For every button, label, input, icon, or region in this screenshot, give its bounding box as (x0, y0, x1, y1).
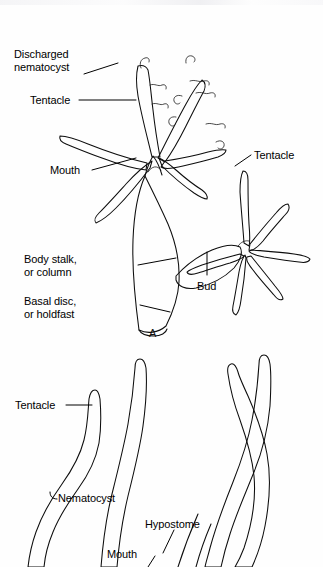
panel-b-tentacle-detail (28, 355, 271, 567)
label-basal-disc-line2: or holdfast (24, 308, 74, 321)
tentacle-bud-2 (249, 204, 289, 250)
tentacle-bud-1 (240, 171, 250, 246)
leader-lines-panel-b (50, 405, 174, 567)
panel-a-letter: A (149, 327, 156, 339)
detail-tentacle-left (28, 390, 101, 567)
tentacle-parent-4 (95, 161, 152, 223)
tentacle-bud-3 (249, 250, 310, 262)
leader-hypostome-lower (163, 530, 174, 553)
detail-tentacle-right-front (228, 364, 270, 567)
hydra-figure: Discharged nematocyst Tentacle Mouth Ten… (0, 0, 323, 567)
label-bud: Bud (197, 280, 216, 293)
label-body-stalk-line1: Body stalk, (24, 253, 77, 266)
leader-lines-panel-a (79, 63, 251, 312)
leader-tentacle-upper-right (235, 155, 251, 166)
label-tentacle-lower: Tentacle (15, 399, 55, 412)
leader-basal-disc (140, 305, 170, 312)
label-mouth-upper: Mouth (50, 164, 80, 177)
hydra-illustration (0, 0, 323, 567)
label-tentacle-upper-right: Tentacle (254, 149, 294, 162)
tentacle-bud-4 (247, 256, 283, 300)
tentacle-parent-1 (137, 66, 161, 157)
leader-mouth (92, 158, 136, 170)
tentacle-parent-5 (159, 158, 207, 199)
label-discharged-nematocyst-line2: nematocyst (14, 61, 69, 74)
bud-hydra (176, 171, 310, 315)
leader-discharged-nematocyst (84, 63, 118, 74)
label-discharged-nematocyst-line1: Discharged (14, 48, 69, 61)
label-tentacle-upper-left: Tentacle (30, 94, 70, 107)
tentacle-bud-5 (233, 255, 246, 315)
label-body-stalk-line2: or column (24, 266, 71, 279)
tentacle-bud-6 (187, 254, 244, 274)
detail-tentacle-right-back (205, 355, 271, 567)
discharged-nematocyst-threads (140, 56, 225, 149)
leader-mouth-lower (148, 556, 155, 567)
label-hypostome-lower: Hypostome (145, 518, 200, 531)
label-basal-disc-line1: Basal disc, (24, 295, 76, 308)
label-nematocyst-lower: Nematocyst (58, 492, 115, 505)
panel-a-parent-hydra (60, 56, 226, 336)
leader-body-stalk (138, 258, 176, 265)
label-mouth-lower: Mouth (107, 548, 137, 561)
detail-tentacle-mid (101, 359, 146, 567)
